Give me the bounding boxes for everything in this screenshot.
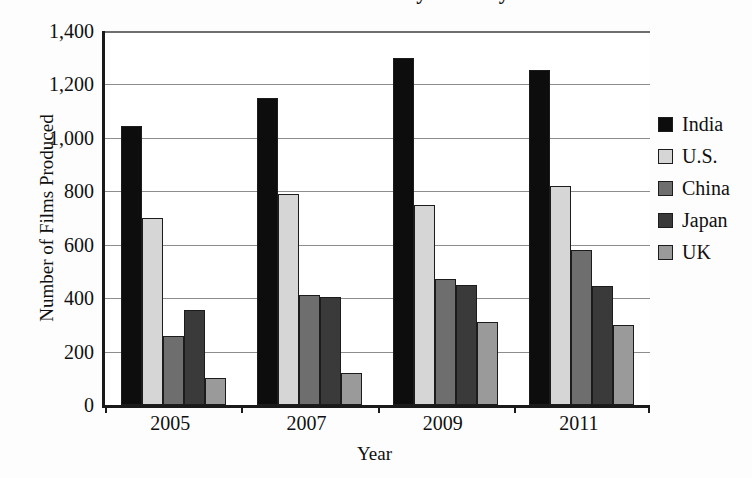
bar-group-2007 xyxy=(241,31,377,405)
legend-label: UK xyxy=(682,242,711,262)
bar-china-2007 xyxy=(299,295,320,405)
x-tick-label-2005: 2005 xyxy=(110,412,230,435)
bar-group-2009 xyxy=(378,31,514,405)
legend-item-uk[interactable]: UK xyxy=(658,236,752,268)
bar-us-2011 xyxy=(550,186,571,405)
bar-japan-2007 xyxy=(320,297,341,405)
bar-us-2005 xyxy=(142,218,163,405)
bar-india-2009 xyxy=(393,58,414,405)
legend-item-india[interactable]: India xyxy=(658,108,752,140)
bar-japan-2005 xyxy=(184,310,205,405)
chart-title: Number of Films Produced by Country xyxy=(120,0,540,6)
x-tick-mark xyxy=(648,405,650,413)
legend-item-us[interactable]: U.S. xyxy=(658,140,752,172)
bar-india-2005 xyxy=(121,126,142,405)
bar-india-2011 xyxy=(529,70,550,405)
chart-legend: IndiaU.S.ChinaJapanUK xyxy=(658,108,752,268)
legend-label: Japan xyxy=(682,210,728,230)
legend-label: India xyxy=(682,114,723,134)
y-tick-label: 400 xyxy=(22,288,94,308)
y-tick-label: 0 xyxy=(22,395,94,415)
legend-item-japan[interactable]: Japan xyxy=(658,204,752,236)
bar-japan-2011 xyxy=(592,286,613,405)
bar-us-2009 xyxy=(414,205,435,405)
legend-label: U.S. xyxy=(682,146,718,166)
legend-swatch-uk xyxy=(658,245,673,260)
legend-swatch-china xyxy=(658,181,673,196)
legend-swatch-japan xyxy=(658,213,673,228)
bar-uk-2005 xyxy=(205,378,226,405)
y-tick-label: 1,200 xyxy=(22,74,94,94)
bar-chart-figure: Number of Films Produced by Country Numb… xyxy=(0,0,752,478)
bar-japan-2009 xyxy=(456,285,477,405)
y-tick-label: 200 xyxy=(22,342,94,362)
bar-india-2007 xyxy=(257,98,278,405)
x-tick-label-2011: 2011 xyxy=(519,412,639,435)
legend-swatch-us xyxy=(658,149,673,164)
bars-layer xyxy=(105,31,650,405)
bar-uk-2007 xyxy=(341,373,362,405)
legend-label: China xyxy=(682,178,730,198)
x-tick-label-2007: 2007 xyxy=(246,412,366,435)
legend-item-china[interactable]: China xyxy=(658,172,752,204)
x-axis-tick-labels: 2005200720092011 xyxy=(102,412,647,442)
y-axis-tick-labels: 02004006008001,0001,2001,400 xyxy=(22,0,94,478)
bar-china-2011 xyxy=(571,250,592,405)
x-tick-label-2009: 2009 xyxy=(383,412,503,435)
bar-china-2009 xyxy=(435,279,456,405)
bar-uk-2011 xyxy=(613,325,634,405)
y-tick-label: 1,400 xyxy=(22,21,94,41)
x-axis-title: Year xyxy=(102,443,647,465)
bar-uk-2009 xyxy=(477,322,498,405)
y-tick-label: 600 xyxy=(22,235,94,255)
bar-group-2005 xyxy=(105,31,241,405)
bar-china-2005 xyxy=(163,336,184,405)
plot-area xyxy=(102,31,650,408)
y-tick-label: 800 xyxy=(22,181,94,201)
legend-swatch-india xyxy=(658,117,673,132)
bar-group-2011 xyxy=(514,31,650,405)
y-tick-label: 1,000 xyxy=(22,128,94,148)
bar-us-2007 xyxy=(278,194,299,405)
